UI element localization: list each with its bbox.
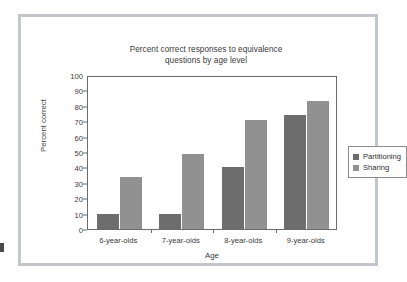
legend-label: Partitioning <box>363 152 401 161</box>
figure-frame: Percent correct responses to equivalence… <box>18 14 378 266</box>
bar-partitioning-7-year-olds <box>159 214 181 229</box>
x-axis-tick-label: 7-year-olds <box>162 236 200 245</box>
y-axis-tick-labels: 0102030405060708090100 <box>61 76 83 230</box>
x-axis-group-separator <box>151 229 152 233</box>
y-axis-tick-label: 100 <box>61 72 83 81</box>
x-axis-title: Age <box>87 251 337 260</box>
bar-sharing-6-year-olds <box>120 177 142 229</box>
x-axis-tick-labels: 6-year-olds7-year-olds8-year-olds9-year-… <box>87 236 337 248</box>
legend-item-partitioning: Partitioning <box>353 151 401 162</box>
legend-swatch-icon <box>353 154 359 160</box>
bar-group <box>151 77 214 229</box>
y-axis-tick-label: 40 <box>61 164 83 173</box>
bar-partitioning-8-year-olds <box>222 167 244 229</box>
bar-sharing-7-year-olds <box>182 154 204 229</box>
legend-item-sharing: Sharing <box>353 162 401 173</box>
y-axis-tick-label: 70 <box>61 118 83 127</box>
x-axis-tick-label: 9-year-olds <box>287 236 325 245</box>
y-axis-tick-label: 10 <box>61 210 83 219</box>
bar-groups <box>88 77 336 229</box>
x-axis-group-separator <box>213 229 214 233</box>
bar-partitioning-6-year-olds <box>97 214 119 229</box>
y-axis-tick-label: 50 <box>61 149 83 158</box>
bar-partitioning-9-year-olds <box>284 115 306 229</box>
page-margin-mark <box>0 243 4 252</box>
y-axis-title: Percent correct <box>39 86 48 166</box>
y-axis-tick-label: 60 <box>61 133 83 142</box>
chart-title: Percent correct responses to equivalence… <box>61 44 351 66</box>
y-axis-tick-label: 0 <box>61 226 83 235</box>
bar-group <box>88 77 151 229</box>
bar-group <box>213 77 276 229</box>
y-axis-tick-label: 20 <box>61 195 83 204</box>
y-axis-tick-label: 90 <box>61 87 83 96</box>
x-axis-tick-label: 8-year-olds <box>224 236 262 245</box>
plot-area <box>87 76 337 230</box>
y-axis-tick-label: 30 <box>61 179 83 188</box>
legend-label: Sharing <box>363 163 389 172</box>
chart-title-line-1: Percent correct responses to equivalence <box>61 44 351 55</box>
chart-title-line-2: questions by age level <box>61 55 351 66</box>
y-axis-tick-label: 80 <box>61 102 83 111</box>
chart-legend: PartitioningSharing <box>348 146 407 178</box>
bar-group <box>276 77 339 229</box>
legend-swatch-icon <box>353 165 359 171</box>
x-axis-group-separator <box>276 229 277 233</box>
x-axis-tick-label: 6-year-olds <box>99 236 137 245</box>
bar-sharing-8-year-olds <box>245 120 267 229</box>
bar-sharing-9-year-olds <box>307 101 329 229</box>
